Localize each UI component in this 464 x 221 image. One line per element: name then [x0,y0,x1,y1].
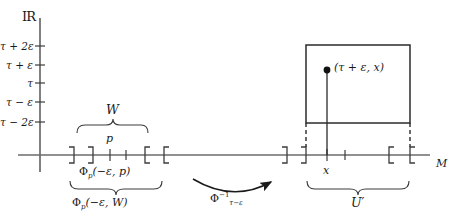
y-tick-label-tau-minus-2eps: τ − 2ε [0,117,33,128]
brace-U-prime [307,181,409,195]
phi-symbol-1: Φ [79,165,88,178]
label-phi-p-neg-eps-p: Φp(−ε, p) [79,166,130,180]
y-tick-label-tau-plus-2eps: τ + 2ε [0,41,33,52]
label-phi-p-neg-eps-W: Φp(−ε, W) [72,197,128,211]
phi-superscript-inverse: −1 [219,191,229,199]
y-tick-label-tau: τ [0,78,33,89]
U-letter: U [351,195,362,210]
math-diagram-figure: IR τ + 2ε τ + ε τ τ − ε τ − 2ε M W p Φp(… [0,0,464,221]
y-tick-label-tau-plus-eps: τ + ε [0,60,33,71]
phi-symbol-3: Φ [210,192,219,205]
y-tick-label-tau-minus-eps: τ − ε [0,97,33,108]
phi-symbol-2: Φ [72,196,81,209]
label-phi-inverse-tau-minus-eps: Φ−1τ−ε [210,192,243,207]
phi-arg-2: (−ε, W) [86,196,128,209]
region-rectangle [306,45,410,123]
vertical-axis-label: IR [22,10,35,23]
marked-point [324,67,331,74]
arrow-phi-inverse [193,179,271,192]
phi-subscript-tau-minus-eps: τ−ε [229,199,243,207]
diagram-canvas [0,0,464,221]
label-point-tau-plus-eps-x: (τ + ε, x) [334,62,384,73]
label-x: x [323,165,329,176]
label-U-prime: U′ [351,197,364,210]
label-p: p [106,133,113,144]
horizontal-axis-label: M [436,158,447,169]
phi-arg-1: (−ε, p) [93,165,131,178]
brace-W [77,119,148,133]
prime-glyph: ′ [362,195,365,210]
brace-phi-p-W [70,181,162,195]
label-W: W [106,104,119,117]
